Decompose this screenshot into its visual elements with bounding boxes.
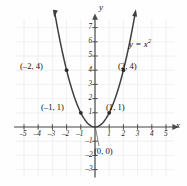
x-tick--1: –1 — [76, 131, 83, 138]
y-tick-1: 1 — [89, 109, 93, 116]
x-tick--5: –5 — [19, 131, 26, 138]
x-tick-1: 1 — [107, 131, 111, 138]
x-tick-5: 5 — [164, 131, 168, 138]
x-tick--2: –2 — [62, 131, 69, 138]
y-axis-label: y — [99, 3, 103, 12]
y-tick-2: 2 — [89, 95, 93, 102]
equation-label: y = x2 — [129, 38, 151, 49]
y-tick--2: –2 — [86, 152, 93, 159]
x-axis-label: x — [176, 121, 180, 130]
point-label-0-0: (0, 0) — [94, 147, 113, 156]
x-tick-4: 4 — [150, 131, 154, 138]
equation-base: y = x — [129, 39, 148, 49]
point-label-neg2-4: (–2, 4) — [20, 62, 43, 71]
x-tick--4: –4 — [34, 131, 41, 138]
y-tick-7: 7 — [89, 24, 93, 31]
y-tick-3: 3 — [89, 81, 93, 88]
x-tick-2: 2 — [122, 131, 126, 138]
x-tick-3: 3 — [136, 131, 140, 138]
graph-figure: (–2, 4) (2, 4) (–1, 1) (1, 1) (0, 0) y =… — [0, 0, 187, 186]
y-tick--1: –1 — [86, 138, 93, 145]
point-label-2-4: (2, 4) — [118, 62, 137, 71]
origin-leader-line — [96, 128, 100, 146]
y-tick-5: 5 — [89, 52, 93, 59]
y-tick-6: 6 — [89, 38, 93, 45]
x-tick--3: –3 — [48, 131, 55, 138]
y-tick--3: –3 — [86, 166, 93, 173]
point-label-neg1-1: (–1, 1) — [41, 103, 64, 112]
point-label-1-1: (1, 1) — [106, 103, 125, 112]
equation-exponent: 2 — [148, 37, 151, 44]
y-tick-4: 4 — [89, 67, 93, 74]
coordinate-plane — [0, 0, 187, 186]
